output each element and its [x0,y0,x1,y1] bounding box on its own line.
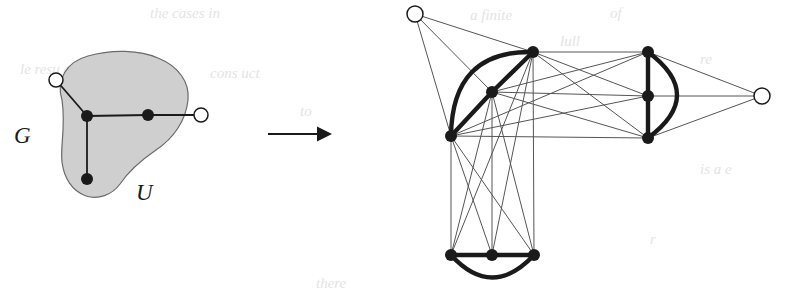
node-B2 [486,249,498,261]
graph-label-G: G [14,123,31,148]
node-L1 [527,46,539,58]
node-w2 [194,108,208,122]
thin-L2-B3 [492,92,534,255]
node-B3 [528,249,540,261]
bleed-10: is a e [700,161,732,177]
bleed-8: lull [560,33,580,49]
node-R3 [642,132,654,144]
thin-L1-R2 [533,52,648,96]
thin-L3-B2 [451,136,492,255]
bleed-7: of [610,5,624,21]
arrow-layer [268,127,332,142]
node-white-top-left [407,6,423,22]
edge-u1-u2 [87,115,148,116]
bleed-3: cons uct [210,65,260,81]
node-B1 [445,249,457,261]
figure-canvas: the cases inle resu econs ucttotherea fi… [0,0,792,300]
thin-L1-B3 [533,52,534,255]
node-L2 [486,86,498,98]
thin-R3-WR [648,96,762,138]
node-R2 [642,90,654,102]
bleed-11: r [650,231,656,247]
bleed-6: a finite [470,7,512,23]
right-graph-thick-edges [451,52,677,278]
thin-L2-R3 [492,92,648,138]
arrow-head [317,127,332,142]
bleed-5: there [316,275,347,291]
node-u1 [81,110,93,122]
node-u3 [81,173,93,185]
subset-region-U [60,51,188,197]
subset-label-U: U [136,180,154,205]
bleed-4: to [300,103,312,119]
node-white-right [754,88,770,104]
bleed-1: the cases in [150,5,220,21]
left-graph-layer [49,51,208,197]
node-u2 [142,109,154,121]
node-L3 [445,130,457,142]
bleed-9: re [700,51,712,67]
node-w1 [49,73,63,87]
node-R1 [642,46,654,58]
